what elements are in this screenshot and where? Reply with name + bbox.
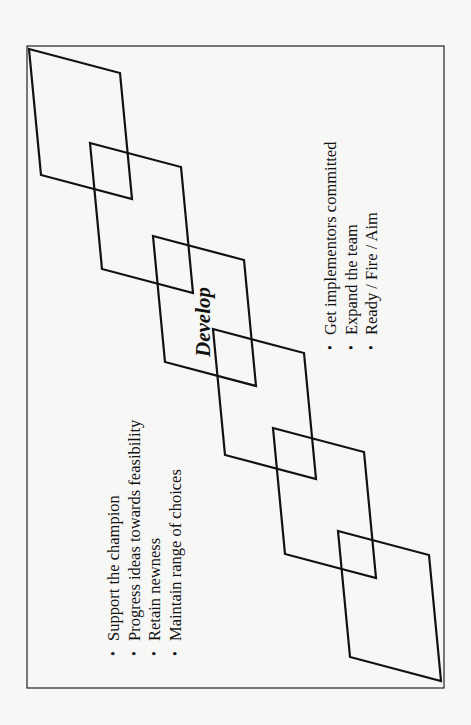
list-item: •Maintain range of choices xyxy=(166,420,187,657)
bullet-text: Maintain range of choices xyxy=(166,469,185,641)
parallelogram-5 xyxy=(273,428,376,578)
parallelogram-2 xyxy=(90,143,193,293)
bullet-text: Expand the team xyxy=(342,224,361,335)
bullet-icon: • xyxy=(104,651,125,656)
stage-label: Develop xyxy=(192,287,214,357)
bullet-text: Retain newness xyxy=(145,538,164,641)
bullet-icon: • xyxy=(125,651,146,656)
bullet-icon: • xyxy=(145,651,166,656)
parallelogram-1 xyxy=(29,49,132,199)
list-item: •Expand the team xyxy=(342,142,363,351)
bullet-icon: • xyxy=(166,651,187,656)
bullet-text: Ready / Fire / Aim xyxy=(362,212,381,335)
right-bullet-list: •Get implementors committed •Expand the … xyxy=(321,142,383,351)
left-bullet-list: •Support the champion •Progress ideas to… xyxy=(104,420,186,657)
bullet-text: Get implementors committed xyxy=(321,142,340,335)
list-item: •Get implementors committed xyxy=(321,142,342,351)
list-item: •Support the champion xyxy=(104,420,125,657)
bullet-text: Progress ideas towards feasibility xyxy=(125,420,144,641)
list-item: •Progress ideas towards feasibility xyxy=(125,420,146,657)
diagram-canvas xyxy=(0,0,471,725)
list-item: •Ready / Fire / Aim xyxy=(362,142,383,351)
list-item: •Retain newness xyxy=(145,420,166,657)
bullet-icon: • xyxy=(362,345,383,350)
bullet-text: Support the champion xyxy=(104,495,123,641)
bullet-icon: • xyxy=(342,345,363,350)
parallelogram-4 xyxy=(213,329,316,479)
bullet-icon: • xyxy=(321,345,342,350)
parallelogram-6 xyxy=(338,531,441,681)
